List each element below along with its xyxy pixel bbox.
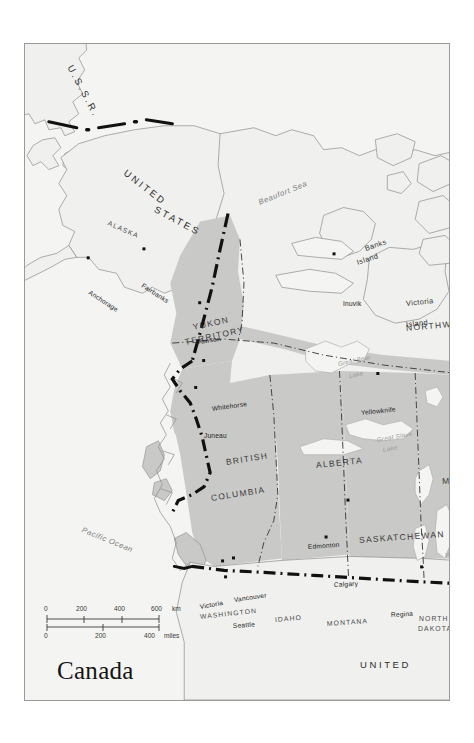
scale-km-tick-600: 600	[151, 605, 162, 612]
scale-miles-unit: miles	[164, 632, 179, 639]
map-page: U.S.S.R.UNITEDSTATESUNITEDYUKONTERRITORY…	[0, 0, 474, 743]
scale-km-tick-200: 200	[76, 605, 87, 612]
north-arrow: N	[446, 58, 450, 106]
north-arrow-glyph	[446, 58, 450, 106]
scale-miles-tick-200: 200	[95, 632, 106, 639]
map-graphic	[25, 44, 449, 700]
scale-km-tick-0: 0	[44, 605, 48, 612]
border-juan-de-fuca	[174, 566, 192, 568]
scale-miles-tick-0: 0	[44, 632, 48, 639]
scale-km-unit: km	[172, 605, 181, 612]
scale-bar-graphic	[41, 607, 219, 641]
page-title: Canada	[57, 657, 134, 685]
lake-winnipeg	[435, 505, 449, 559]
region-alberta	[270, 371, 350, 560]
map-frame: U.S.S.R.UNITEDSTATESUNITEDYUKONTERRITORY…	[24, 43, 450, 701]
scale-miles-tick-400: 400	[144, 632, 155, 639]
region-saskatchewan	[340, 371, 424, 558]
scale-bar: 0 200 400 600 km 0 200 400 miles	[41, 607, 219, 641]
scale-km-tick-400: 400	[114, 605, 125, 612]
